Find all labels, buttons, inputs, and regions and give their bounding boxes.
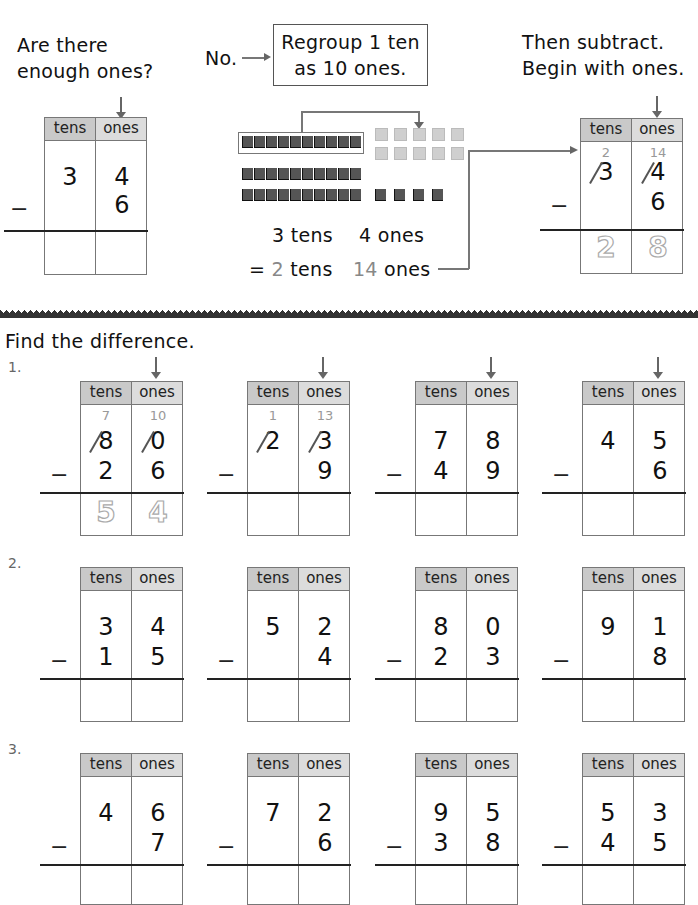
- problem-row-label: 3.: [8, 741, 21, 757]
- one-cube: [451, 147, 464, 160]
- answer-line: [542, 864, 686, 866]
- ones-header: ones: [95, 117, 147, 141]
- sub-ones: 5: [635, 829, 685, 857]
- regroup-connector: [301, 111, 303, 133]
- minus-sign: −: [552, 649, 570, 673]
- ones-header: ones: [131, 381, 183, 405]
- sub-ones: 7: [133, 829, 183, 857]
- tens-header: tens: [80, 567, 132, 591]
- one-cube: [375, 147, 388, 160]
- answer-line: [542, 492, 686, 494]
- answer-input-area[interactable]: [417, 682, 515, 720]
- tens-header: tens: [582, 381, 634, 405]
- arrow-down-icon: [490, 357, 492, 373]
- answer-line: [375, 864, 519, 866]
- sub-ones: 9: [300, 457, 350, 485]
- answer-line: [40, 678, 184, 680]
- sub-tens: 4: [583, 829, 633, 857]
- top-tens: 3: [81, 613, 131, 641]
- ones-header: ones: [131, 753, 183, 777]
- answer-input-area[interactable]: [249, 496, 347, 534]
- top-ones: 5: [635, 427, 685, 455]
- minus-sign: −: [385, 649, 403, 673]
- sub-tens: 3: [416, 829, 466, 857]
- answer-ones: 8: [633, 232, 683, 264]
- arrow-head-icon: [264, 53, 271, 61]
- answer-input-area[interactable]: [417, 496, 515, 534]
- answer-input-area[interactable]: [584, 868, 682, 903]
- one-cube: [375, 189, 386, 201]
- top-ones: 3: [635, 799, 685, 827]
- tens-header: tens: [415, 381, 467, 405]
- answer-input-area[interactable]: [82, 682, 180, 720]
- minus-sign: −: [385, 835, 403, 859]
- answer-input-area[interactable]: [82, 868, 180, 903]
- ones-header: ones: [633, 753, 685, 777]
- problem-row-label: 2.: [8, 555, 21, 571]
- instructions: Find the difference.: [5, 328, 195, 354]
- regroup-box: Regroup 1 ten as 10 ones.: [273, 24, 428, 86]
- answer-line: [4, 230, 148, 232]
- top-ones: 8: [468, 427, 518, 455]
- top-ones: 5: [468, 799, 518, 827]
- arrow-down-icon: [120, 97, 122, 113]
- minus-sign: −: [385, 463, 403, 487]
- answer-line: [207, 864, 351, 866]
- answer-input-area[interactable]: [584, 682, 682, 720]
- sub-ones: 6: [635, 457, 685, 485]
- top-tens: 4: [81, 799, 131, 827]
- tens-ones-line2: = 2 tens 14 ones: [249, 256, 431, 282]
- sub-tens: 1: [81, 643, 131, 671]
- tens-header: tens: [415, 567, 467, 591]
- arrow-down-icon: [657, 357, 659, 373]
- top-ones: 4: [133, 613, 183, 641]
- minus-sign: −: [552, 463, 570, 487]
- answer-input-area[interactable]: [82, 496, 180, 534]
- answer-input-area[interactable]: [417, 868, 515, 903]
- top-tens: 5: [583, 799, 633, 827]
- answer-line: [207, 678, 351, 680]
- minus-sign: −: [50, 835, 68, 859]
- minus-sign: −: [50, 649, 68, 673]
- tens-header: tens: [580, 118, 632, 142]
- answer-line: [375, 678, 519, 680]
- sub-ones: 6: [300, 829, 350, 857]
- answer-input-area[interactable]: [249, 682, 347, 720]
- ones-header: ones: [298, 567, 350, 591]
- sub-ones: 8: [468, 829, 518, 857]
- one-cube: [432, 189, 443, 201]
- new-ones: 10: [133, 409, 183, 423]
- ones-header: ones: [633, 567, 685, 591]
- minus-sign: −: [217, 463, 235, 487]
- minus-sign: −: [552, 835, 570, 859]
- top-tens: 5: [248, 613, 298, 641]
- top-ones: 2: [300, 799, 350, 827]
- minus-sign: −: [217, 835, 235, 859]
- answer-input-area[interactable]: [584, 496, 682, 534]
- top-ones: 2: [300, 613, 350, 641]
- tens-header: tens: [415, 753, 467, 777]
- tens-header: tens: [582, 567, 634, 591]
- one-cube: [413, 128, 426, 141]
- new-tens: 1: [248, 409, 298, 423]
- arrow-right-icon: [570, 146, 578, 154]
- sub-ones: 9: [468, 457, 518, 485]
- top-tens: 8: [81, 427, 131, 455]
- one-cube: [413, 147, 426, 160]
- one-cube: [432, 147, 445, 160]
- ones-header: ones: [466, 381, 518, 405]
- sub-ones: 6: [97, 191, 147, 219]
- tens-header: tens: [582, 753, 634, 777]
- minus-sign: −: [550, 194, 568, 218]
- ones-header: ones: [466, 753, 518, 777]
- connector-line: [438, 268, 469, 270]
- one-cube: [432, 128, 445, 141]
- top-tens: 7: [416, 427, 466, 455]
- top-tens: 3: [45, 163, 95, 191]
- sub-ones: 5: [133, 643, 183, 671]
- sub-tens: 4: [416, 457, 466, 485]
- answer-input-area[interactable]: [249, 868, 347, 903]
- top-tens: 4: [583, 427, 633, 455]
- one-cube: [394, 147, 407, 160]
- then-text: Then subtract. Begin with ones.: [522, 29, 685, 81]
